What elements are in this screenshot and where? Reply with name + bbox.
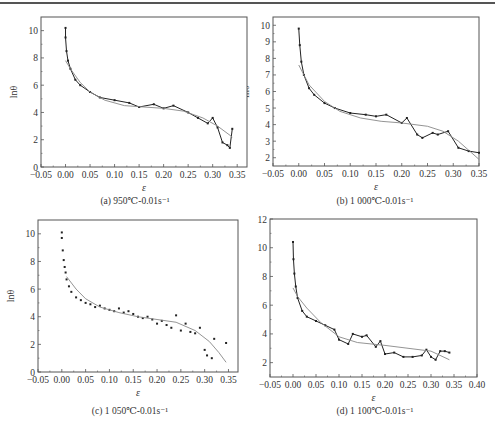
y-tick-label: 10 [258,243,268,253]
fit-curve [299,65,479,159]
y-axis-label: lnθ [247,85,251,98]
y-tick-label: 4 [30,312,35,322]
y-axis-label: lnθ [247,292,248,305]
data-point [85,302,87,304]
data-point [153,103,155,105]
y-tick-label: 6 [33,81,38,91]
data-point [127,310,129,312]
y-tick-label: 6 [265,87,270,97]
x-tick-label: −0.05 [262,169,284,179]
x-tick-label: 0.30 [445,169,462,179]
data-point [435,359,437,361]
x-tick-label: 0.20 [149,375,166,385]
y-tick-label: 2 [262,358,267,368]
measured-line [299,29,479,153]
measured-line [293,242,449,360]
data-point [212,117,214,119]
data-point [62,249,64,251]
y-tick-label: 3 [265,137,270,147]
data-point [94,306,96,308]
data-point [299,44,301,46]
x-tick-label: 0.25 [400,380,417,390]
data-point [292,241,294,243]
data-point [65,272,67,274]
x-tick-label: 0.15 [354,380,371,390]
data-point [74,79,76,81]
data-point [66,278,68,280]
data-point [365,114,367,116]
y-tick-label: 10 [29,26,39,36]
data-point [384,353,386,355]
x-tick-label: 0.00 [285,380,302,390]
data-point [170,327,172,329]
x-tick-label: 0.20 [393,169,410,179]
x-axis-label: ε [374,181,378,192]
chart-panel-a: −0.050.000.050.100.150.200.250.300.35024… [0,0,248,212]
x-tick-label: 0.05 [316,169,333,179]
data-point [80,299,82,301]
data-point [207,122,209,124]
data-point [416,134,418,136]
data-point [180,330,182,332]
data-point [439,350,441,352]
data-point [447,130,449,132]
data-point [65,36,67,38]
data-point [478,152,480,154]
data-point [300,61,302,63]
data-point [70,291,72,293]
y-tick-label: 12 [258,215,268,225]
data-point [185,323,187,325]
y-tick-label: 5 [265,104,270,114]
chart-panel-c: −0.050.000.050.100.150.200.250.300.35024… [0,212,248,425]
y-tick-label: 4 [262,329,267,339]
y-tick-label: 4 [265,120,270,130]
y-tick-label: 2 [265,153,270,163]
data-point [67,60,69,62]
y-tick-label: 10 [26,229,36,239]
data-point [412,356,414,358]
data-point [315,320,317,322]
data-point [444,350,446,352]
chart-panel-b: −0.050.000.050.100.150.200.250.300.35234… [247,0,495,212]
data-point [298,28,300,30]
x-tick-label: 0.25 [180,170,197,180]
data-point [379,340,381,342]
x-tick-label: 0.35 [220,375,237,385]
data-point [306,316,308,318]
data-point [118,307,120,309]
data-point [75,296,77,298]
data-point [333,329,335,331]
data-point [206,354,208,356]
data-point [156,323,158,325]
plot-frame [38,220,238,372]
data-point [432,132,434,134]
data-point [132,313,134,315]
x-tick-label: 0.20 [377,380,394,390]
x-tick-label: 0.25 [173,375,190,385]
x-tick-label: 0.15 [131,170,148,180]
x-tick-label: 0.00 [57,170,74,180]
data-point [292,258,294,260]
y-tick-label: 8 [262,272,267,282]
x-tick-label: 0.25 [419,169,436,179]
y-tick-label: 6 [30,285,35,295]
plot-frame [270,219,477,377]
data-point [313,94,315,96]
x-tick-label: 0.00 [53,375,70,385]
y-tick-label: 2 [30,340,35,350]
data-point [166,324,168,326]
x-tick-label: 0.05 [82,170,99,180]
x-tick-label: 0.05 [308,380,325,390]
data-point [375,115,377,117]
data-point [437,134,439,136]
x-tick-label: 0.40 [469,380,486,390]
x-tick-label: 0.10 [331,380,348,390]
data-point [204,349,206,351]
y-tick-label: 8 [33,53,38,63]
plot-frame [41,17,247,167]
data-point [347,343,349,345]
data-point [293,273,295,275]
y-tick-label: 9 [265,37,270,47]
data-point [114,99,116,101]
data-point [338,339,340,341]
